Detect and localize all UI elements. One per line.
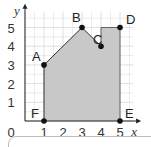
point-a xyxy=(41,62,47,68)
y-tick-label: 4 xyxy=(7,39,14,54)
y-axis-label: y xyxy=(12,3,20,18)
y-axis-arrow-icon xyxy=(23,4,28,9)
y-tick-label: 1 xyxy=(7,95,14,110)
coordinate-plot: 12345123450xyABCDEF xyxy=(0,0,151,147)
point-label-f: F xyxy=(31,106,39,121)
point-e xyxy=(117,118,123,124)
answer-box xyxy=(8,136,151,147)
point-label-e: E xyxy=(125,106,134,121)
point-f xyxy=(41,118,47,124)
point-label-b: B xyxy=(72,10,81,25)
point-b xyxy=(79,25,85,31)
y-tick-label: 3 xyxy=(7,58,14,73)
x-axis-arrow-icon xyxy=(136,119,141,124)
y-tick-label: 2 xyxy=(7,77,14,92)
point-label-d: D xyxy=(126,12,135,27)
point-label-a: A xyxy=(32,49,41,64)
point-label-c: C xyxy=(93,32,102,47)
point-d xyxy=(117,25,123,31)
y-tick-label: 5 xyxy=(7,21,14,36)
shaded-region xyxy=(44,28,120,122)
